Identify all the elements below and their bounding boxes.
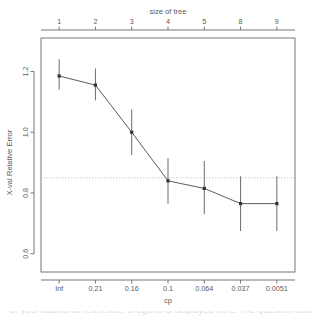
top-axis-tick-label: 8 [239,17,243,26]
y-axis-title: X-val Relative Error [5,129,14,195]
top-axis-tick-label: 5 [202,17,206,26]
bottom-axis-tick-label: 0.16 [125,284,139,293]
y-axis-tick-label: 0.8 [21,188,30,198]
rpart-cp-plot: 1234589size of treeInf0.210.160.10.0640.… [0,0,312,322]
data-point [275,202,278,205]
data-point [58,74,61,77]
data-point [203,187,206,190]
bottom-axis-tick-label: 0.21 [88,284,102,293]
bottom-axis-tick-label: 0.064 [195,284,213,293]
x-axis-title: cp [164,296,172,305]
top-axis-title: size of tree [149,7,186,16]
top-axis-tick-label: 9 [275,17,279,26]
data-point [239,202,242,205]
data-point [166,179,169,182]
chart-canvas: 1234589size of treeInf0.210.160.10.0640.… [0,0,312,322]
y-axis-tick-label: 1.2 [21,66,30,76]
top-axis-tick-label: 2 [93,17,97,26]
data-point [130,131,133,134]
bottom-axis-tick-label: 0.037 [232,284,250,293]
top-axis-tick-label: 4 [166,17,170,26]
y-axis-tick-label: 1.0 [21,127,30,137]
top-axis-tick-label: 3 [130,17,134,26]
bottom-axis-tick-label: 0.1 [163,284,173,293]
bottom-axis-tick-label: Inf [55,284,63,293]
plot-frame [41,38,295,272]
clipped-footer-text: For your additional reference, a legend … [0,311,312,322]
y-axis-tick-label: 0.6 [21,249,30,259]
data-point [94,84,97,87]
clipped-footer-label: For your additional reference, a legend … [0,311,312,315]
top-axis-tick-label: 1 [57,17,61,26]
bottom-axis-tick-label: 0.0051 [266,284,288,293]
